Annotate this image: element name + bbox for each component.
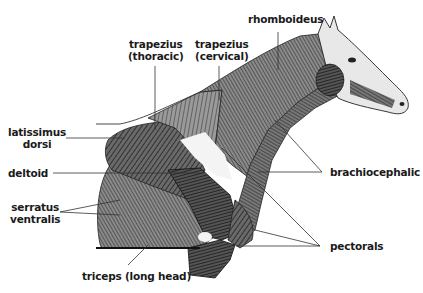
leader-pectorals-2 [255,230,320,246]
eye-shape [348,58,356,63]
nostril-shape [400,102,405,106]
label-trapezius-cervical: trapezius (cervical) [195,38,249,62]
label-serratus-ventralis: serratus ventralis [10,201,60,225]
label-latissimus-dorsi: latissimus dorsi [8,126,66,150]
label-deltoid: deltoid [8,167,48,179]
label-pectorals: pectorals [330,240,383,252]
label-triceps-long-head: triceps (long head) [82,270,191,282]
cheek-shape [316,64,344,96]
label-brachiocephalic: brachiocephalic [330,166,420,178]
elbow-highlight [198,232,212,242]
label-trapezius-thoracic: trapezius (thoracic) [128,38,184,62]
leader-brachiocephalic-1 [275,120,322,172]
horse-muscle-diagram: trapezius (thoracic) trapezius (cervical… [0,0,423,293]
label-rhomboideus: rhomboideus [248,13,323,25]
